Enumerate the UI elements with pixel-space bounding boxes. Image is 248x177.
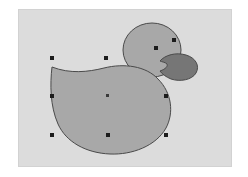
handle-head-left[interactable] — [154, 46, 158, 50]
handle-bottom-right[interactable] — [164, 133, 168, 137]
handle-middle-left[interactable] — [50, 94, 54, 98]
handle-bottom-left[interactable] — [50, 133, 54, 137]
duck-body-shape[interactable] — [51, 66, 171, 154]
drawing-canvas[interactable] — [19, 10, 231, 166]
handle-top-center[interactable] — [104, 56, 108, 60]
handle-middle-right[interactable] — [164, 94, 168, 98]
application-window — [0, 0, 248, 177]
rotation-center-marker[interactable] — [106, 94, 109, 97]
handle-bottom-center[interactable] — [106, 133, 110, 137]
handle-head-right[interactable] — [172, 38, 176, 42]
handle-top-left[interactable] — [50, 56, 54, 60]
vector-artwork-svg[interactable] — [19, 10, 231, 166]
